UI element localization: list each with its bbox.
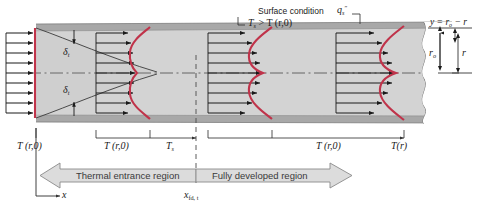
inlet-flow-arrows — [6, 33, 33, 113]
profile-label-developed-inlet: T (r,0) — [316, 141, 341, 151]
x-axis-label: x — [62, 190, 66, 200]
delta-t-lower-label: δt — [63, 85, 69, 96]
heat-flux-label: qs″ — [337, 5, 347, 16]
profile-label-entrance: T (r,0) — [104, 141, 129, 151]
profile-label-surface-temp: Ts — [166, 141, 174, 152]
surface-condition-expression: Ts > T (r,0) — [248, 18, 292, 29]
local-radius-label: r — [462, 48, 466, 58]
outer-radius-label: ro — [429, 48, 436, 59]
label-ticks — [36, 128, 404, 138]
profile-label-inlet: T (r,0) — [17, 141, 42, 151]
fully-developed-region-label: Fully developed region — [212, 170, 308, 181]
delta-t-upper-label: δt — [63, 47, 69, 58]
thermal-entry-length-diagram: Surface condition Ts > T (r,0) qs″ y = r… — [0, 0, 490, 211]
tube-wall-bottom — [36, 115, 452, 123]
transition-point-label: xfd, t — [184, 190, 198, 201]
profile-label-developed: T(r) — [391, 141, 407, 151]
radius-relation-label: y = ro − r — [430, 18, 467, 29]
surface-condition-caption: Surface condition — [258, 6, 324, 16]
thermal-entrance-region-label: Thermal entrance region — [76, 170, 180, 181]
